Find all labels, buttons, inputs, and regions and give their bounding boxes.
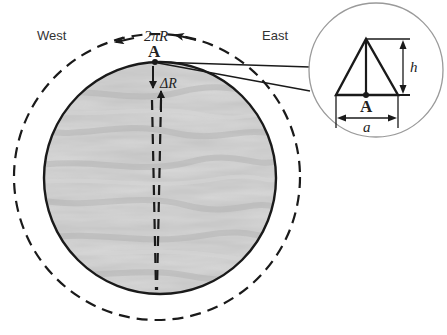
label-west: West bbox=[37, 28, 67, 43]
label-point-a: A bbox=[148, 42, 161, 61]
label-east: East bbox=[262, 28, 288, 43]
label-inset-point-a: A bbox=[360, 97, 373, 116]
diagram-canvas: West East 2πR A ΔR A h a bbox=[0, 0, 447, 335]
label-delta-r: ΔR bbox=[159, 76, 177, 91]
inset-magnifier bbox=[309, 3, 443, 137]
label-base: a bbox=[363, 119, 371, 135]
label-height: h bbox=[410, 59, 418, 75]
